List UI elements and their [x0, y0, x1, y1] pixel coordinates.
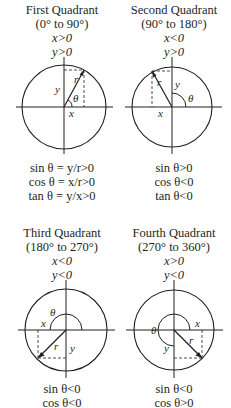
fourth-quadrant-diagram: x θ r y — [126, 280, 223, 378]
theta-label: θ — [151, 324, 157, 336]
y-label: y — [163, 342, 169, 354]
r-label: r — [54, 340, 59, 352]
y-label: y — [69, 342, 75, 354]
x-label: x — [194, 317, 200, 329]
arrow-head-icon — [152, 71, 157, 78]
y-label: y — [174, 78, 180, 90]
r-label: r — [157, 76, 162, 88]
radius-ray — [152, 71, 172, 107]
x-label: x — [68, 107, 74, 119]
x-label: x — [157, 107, 163, 119]
x-label: x — [40, 317, 46, 329]
r-label: r — [74, 73, 79, 85]
quadrant-diagrams: r y θ x r y θ x θ x r y — [0, 0, 231, 408]
arrow-head-icon — [80, 70, 85, 76]
theta-label: θ — [73, 92, 79, 104]
y-label: y — [54, 83, 60, 95]
r-label: r — [189, 334, 194, 346]
third-quadrant-diagram: θ x r y — [18, 280, 115, 378]
second-quadrant-diagram: r y θ x — [125, 57, 222, 154]
theta-label: θ — [188, 92, 194, 104]
theta-label: θ — [50, 306, 56, 318]
first-quadrant-diagram: r y θ x — [16, 57, 113, 154]
